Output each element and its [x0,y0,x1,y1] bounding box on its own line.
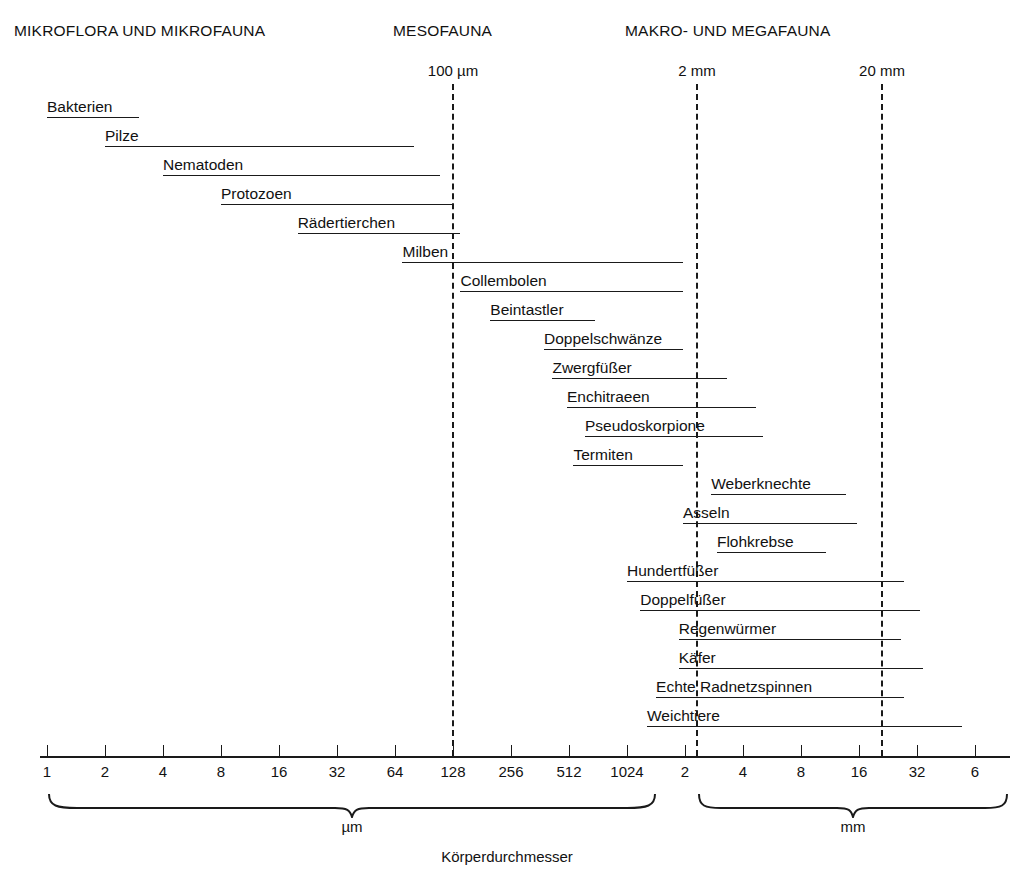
organism-label: Enchitraeen [567,388,650,406]
axis-tick [395,745,396,756]
organism-row: Bakterien [0,89,1014,118]
brace-millimeter [697,792,1009,818]
axis-tick [105,745,106,756]
axis-tick-label: 8 [217,763,225,780]
axis-tick [569,745,570,756]
axis-tick-label: 6 [971,763,979,780]
organism-row: Hundertfüßer [0,553,1014,582]
organism-row: Collembolen [0,263,1014,292]
brace-label-millimeter: mm [841,818,866,835]
axis-tick-label: 4 [739,763,747,780]
gridline-label-100um: 100 µm [428,62,478,79]
organism-label: Doppelschwänze [544,330,662,348]
axis-tick-label: 16 [271,763,288,780]
axis-tick-label: 64 [387,763,404,780]
axis-tick [801,745,802,756]
axis-tick-label: 512 [556,763,581,780]
axis-tick [859,745,860,756]
axis-tick [279,745,280,756]
organism-label: Zwergfüßer [552,359,631,377]
organism-row: Milben [0,234,1014,263]
category-header-mikroflora: MIKROFLORA UND MIKROFAUNA [14,22,265,40]
organism-row: Protozoen [0,176,1014,205]
organism-label: Nematoden [163,156,243,174]
axis-tick [163,745,164,756]
organism-row: Doppelfüßer [0,582,1014,611]
organism-label: Bakterien [47,98,112,116]
organism-row: Zwergfüßer [0,350,1014,379]
organism-label: Collembolen [460,272,546,290]
organism-range-bar [647,726,962,727]
organism-row: Termiten [0,437,1014,466]
axis-tick-label: 32 [909,763,926,780]
axis-tick [627,745,628,756]
organism-row: Nematoden [0,147,1014,176]
axis-tick [511,745,512,756]
diagram-canvas: MIKROFLORA UND MIKROFAUNA MESOFAUNA MAKR… [0,0,1014,888]
gridline-label-2mm: 2 mm [678,62,716,79]
organism-row: Pilze [0,118,1014,147]
axis-tick [917,745,918,756]
organism-label: Rädertierchen [298,214,395,232]
axis-tick-label: 8 [797,763,805,780]
organism-row: Rädertierchen [0,205,1014,234]
organism-label: Pilze [105,127,139,145]
axis-tick-label: 2 [101,763,109,780]
axis-tick [453,745,454,756]
organism-row: Flohkrebse [0,524,1014,553]
organism-label: Doppelfüßer [640,591,725,609]
category-header-makrofauna: MAKRO- UND MEGAFAUNA [625,22,831,40]
axis-caption: Körperdurchmesser [441,848,573,865]
axis-tick-label: 256 [498,763,523,780]
organism-row: Weichtiere [0,698,1014,727]
axis-tick [743,745,744,756]
axis-tick [221,745,222,756]
organism-label: Termiten [573,446,632,464]
organism-row: Enchitraeen [0,379,1014,408]
organism-label: Asseln [683,504,730,522]
organism-label: Pseudoskorpione [585,417,705,435]
organism-row: Regenwürmer [0,611,1014,640]
axis-tick-label: 128 [440,763,465,780]
organism-row: Echte Radnetzspinnen [0,669,1014,698]
category-header-mesofauna: MESOFAUNA [393,22,492,40]
brace-micrometer [47,792,657,818]
axis-tick-label: 1 [43,763,51,780]
organism-label: Milben [402,243,448,261]
axis-tick [975,745,976,756]
axis-tick [685,745,686,756]
organism-label: Echte Radnetzspinnen [656,678,812,696]
organism-label: Hundertfüßer [627,562,718,580]
organism-row: Weberknechte [0,466,1014,495]
axis-tick [337,745,338,756]
organism-label: Beintastler [490,301,563,319]
gridline-label-20mm: 20 mm [859,62,905,79]
organism-row: Doppelschwänze [0,321,1014,350]
organism-label: Regenwürmer [679,620,776,638]
axis-tick [47,745,48,756]
organism-row: Käfer [0,640,1014,669]
organism-label: Weichtiere [647,707,720,725]
axis-tick-label: 2 [681,763,689,780]
organism-row: Asseln [0,495,1014,524]
axis-tick-label: 32 [329,763,346,780]
axis-line [40,756,1010,758]
organism-label: Käfer [679,649,716,667]
organism-row: Pseudoskorpione [0,408,1014,437]
axis-tick-label: 1024 [610,763,643,780]
organism-label: Protozoen [221,185,292,203]
axis-tick-label: 16 [851,763,868,780]
axis-tick-label: 4 [159,763,167,780]
organism-label: Flohkrebse [717,533,794,551]
brace-label-micrometer: µm [341,818,362,835]
organism-label: Weberknechte [711,475,811,493]
organism-row: Beintastler [0,292,1014,321]
